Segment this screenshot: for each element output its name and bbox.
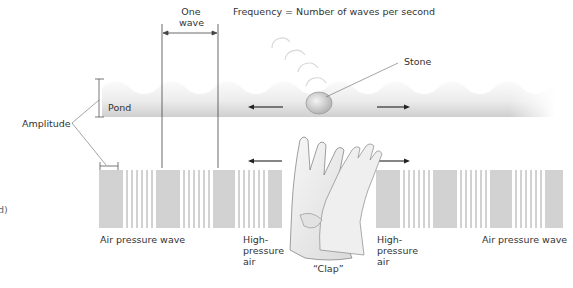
air-pressure-wave-left: [100, 170, 281, 228]
left-edge-fragment: d): [0, 204, 8, 215]
air-pressure-wave-right: [377, 170, 562, 228]
high-pressure-left-label: High- pressure air: [243, 234, 284, 267]
air-pressure-wave-right-label: Air pressure wave: [482, 234, 567, 245]
air-pressure-wave-left-label: Air pressure wave: [100, 234, 185, 245]
pond-label: Pond: [108, 102, 131, 113]
clapping-hands-icon: [290, 137, 382, 260]
amplitude-label: Amplitude: [22, 118, 71, 129]
stone-icon: [306, 92, 332, 114]
high-pressure-right-label: High- pressure air: [377, 234, 418, 267]
amplitude-bracket-air: [100, 162, 118, 170]
one-wave-label: One wave: [179, 6, 203, 28]
air-arrow-left: [248, 159, 282, 164]
amplitude-pointers: [72, 100, 106, 165]
frequency-label: Frequency = Number of waves per second: [233, 6, 435, 17]
stone-label: Stone: [404, 56, 431, 67]
clap-label: “Clap”: [313, 263, 344, 274]
air-arrow-right: [377, 159, 410, 164]
